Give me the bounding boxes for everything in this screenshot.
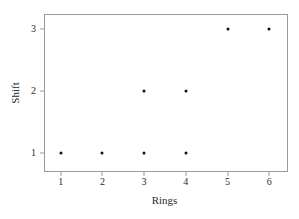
x-tick-label: 1 xyxy=(58,176,63,188)
data-point xyxy=(59,152,62,155)
y-axis-title: Shift xyxy=(9,82,21,103)
y-tick-mark xyxy=(40,153,44,154)
x-axis-title: Rings xyxy=(0,194,299,206)
data-point xyxy=(184,90,187,93)
data-point xyxy=(101,152,104,155)
y-tick-mark xyxy=(40,91,44,92)
data-point xyxy=(143,152,146,155)
data-point xyxy=(143,90,146,93)
y-tick-label: 3 xyxy=(31,23,36,35)
x-tick-label: 3 xyxy=(142,176,147,188)
data-point xyxy=(226,28,229,31)
x-tick-label: 6 xyxy=(267,176,272,188)
x-tick-label: 4 xyxy=(183,176,188,188)
data-point xyxy=(184,152,187,155)
chart-canvas: 123456 123 Rings Shift xyxy=(0,0,299,219)
y-tick-mark xyxy=(40,29,44,30)
plot-area xyxy=(44,14,288,172)
x-tick-label: 5 xyxy=(225,176,230,188)
x-tick-label: 2 xyxy=(100,176,105,188)
x-axis-title-text: Rings xyxy=(152,194,178,206)
y-tick-label: 2 xyxy=(31,85,36,97)
y-tick-label: 1 xyxy=(31,147,36,159)
data-point xyxy=(268,28,271,31)
